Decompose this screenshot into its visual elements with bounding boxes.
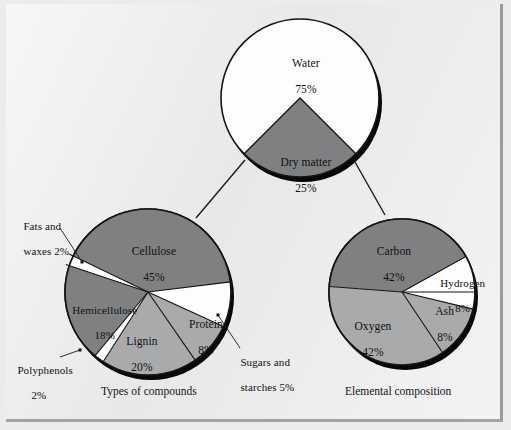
label-cellulose-pct: 45% (143, 271, 164, 283)
label-lignin-name: Lignin (126, 335, 157, 347)
label-sugars-line2: starches 5% (240, 381, 294, 393)
label-sugars-and-starches: Sugars and starches 5% (229, 344, 313, 406)
label-polyphenols-line2: 2% (17, 389, 46, 401)
label-protein-name: Protein (189, 318, 223, 330)
caption-types-of-compounds: Types of compounds (101, 385, 197, 397)
label-dry-matter-name: Dry matter (280, 156, 331, 168)
label-hemicellulose-name: Hemicellulose (72, 304, 137, 316)
label-lignin-pct: 20% (131, 361, 152, 373)
label-carbon-name: Carbon (377, 245, 411, 257)
label-water: Water 75% (268, 44, 332, 108)
label-fats-and-waxes: Fats and waxes 2% (12, 208, 88, 270)
label-carbon: Carbon 42% (355, 232, 421, 296)
caption-elemental-composition: Elemental composition (345, 385, 451, 397)
label-oxygen-name: Oxygen (354, 320, 391, 332)
figure-root: Water 75% Dry matter 25% Cellulose 45% H… (0, 0, 511, 430)
label-water-name: Water (292, 57, 320, 69)
label-polyphenols-line1: Polyphenols (17, 364, 73, 376)
label-water-pct: 75% (295, 83, 316, 95)
label-cellulose-name: Cellulose (132, 245, 176, 257)
label-fats-and-waxes-line1: Fats and (23, 220, 61, 232)
label-lignin: Lignin 20% (108, 322, 164, 386)
label-oxygen-pct: 42% (362, 346, 383, 358)
label-sugars-line1: Sugars and (240, 356, 290, 368)
label-ash: Ash 8% (417, 292, 461, 356)
label-polyphenols: Polyphenols 2% (6, 352, 72, 414)
label-dry-matter-pct: 25% (295, 182, 316, 194)
label-dry-matter: Dry matter 25% (262, 143, 338, 207)
label-protein: Protein 8% (173, 305, 227, 369)
label-oxygen: Oxygen 42% (336, 307, 398, 371)
label-ash-name: Ash (435, 305, 454, 317)
label-ash-pct: 8% (437, 331, 453, 343)
label-carbon-pct: 42% (383, 271, 404, 283)
label-protein-pct: 8% (198, 344, 214, 356)
label-fats-and-waxes-line2: waxes 2% (23, 245, 69, 257)
label-hydrogen-name: Hydrogen (440, 277, 485, 289)
label-cellulose: Cellulose 45% (110, 232, 186, 296)
